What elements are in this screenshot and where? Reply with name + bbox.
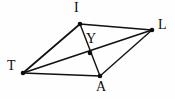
geometry-figure: ILTAY (0, 0, 175, 99)
vertex-dot-l (150, 28, 155, 33)
vertex-dot-i (78, 22, 83, 27)
segment-i-l (80, 24, 152, 30)
figure-canvas (0, 0, 175, 99)
segment-l-a (100, 30, 152, 76)
vertex-label-t: T (7, 59, 16, 73)
segment-a-t (23, 73, 100, 76)
vertex-label-a: A (96, 80, 106, 94)
vertex-label-i: I (74, 1, 79, 15)
vertex-dot-a (98, 74, 103, 79)
vertex-dot-y (88, 51, 93, 56)
segment-t-i (23, 24, 80, 73)
vertex-label-l: L (158, 18, 167, 32)
vertex-dot-t (21, 71, 26, 76)
vertex-label-y: Y (86, 32, 96, 46)
